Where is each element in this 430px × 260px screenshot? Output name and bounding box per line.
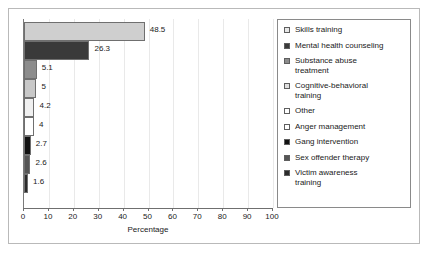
legend-label: Sex offender therapy: [295, 153, 369, 163]
bar[interactable]: [24, 41, 89, 60]
bar-value-label: 4: [39, 120, 43, 130]
bar-row: 26.3: [24, 41, 273, 60]
legend-item[interactable]: Skills training: [284, 25, 406, 35]
x-tick: [247, 208, 248, 211]
x-tick-label: 50: [136, 212, 160, 222]
legend-label: Cognitive-behavioral training: [295, 81, 368, 100]
legend-swatch-icon: [284, 124, 290, 130]
bar-value-label: 2.6: [35, 158, 46, 168]
bar[interactable]: [24, 174, 28, 193]
legend-item[interactable]: Other: [284, 106, 406, 116]
legend-label: Other: [295, 106, 315, 116]
legend-swatch-icon: [284, 155, 290, 161]
x-tick-label: 30: [86, 212, 110, 222]
x-tick: [222, 208, 223, 211]
x-tick: [148, 208, 149, 211]
bar-row: 2.6: [24, 155, 273, 174]
legend-swatch-icon: [284, 139, 290, 145]
bar-row: 4: [24, 117, 273, 136]
legend-item[interactable]: Substance abuse treatment: [284, 56, 406, 75]
bar[interactable]: [24, 155, 30, 174]
legend-swatch-icon: [284, 43, 290, 49]
bar-value-label: 4.2: [39, 101, 50, 111]
bar-row: 5: [24, 79, 273, 98]
bar-row: 5.1: [24, 60, 273, 79]
bar[interactable]: [24, 79, 36, 98]
bar[interactable]: [24, 98, 34, 117]
bar-row: 1.6: [24, 174, 273, 193]
legend-label: Gang intervention: [295, 137, 358, 147]
x-tick-label: 40: [111, 212, 135, 222]
legend-label: Anger management: [295, 122, 365, 132]
x-tick: [98, 208, 99, 211]
x-tick-label: 70: [185, 212, 209, 222]
bar-value-label: 2.7: [36, 139, 47, 149]
bar[interactable]: [24, 136, 31, 155]
x-tick: [48, 208, 49, 211]
bar[interactable]: [24, 117, 34, 136]
legend-swatch-icon: [284, 83, 290, 89]
x-tick-label: 20: [61, 212, 85, 222]
x-tick-label: 0: [11, 212, 35, 222]
bar-value-label: 5: [41, 82, 45, 92]
chart-legend: Skills trainingMental health counselingS…: [277, 19, 411, 208]
legend-swatch-icon: [284, 27, 290, 33]
legend-label: Skills training: [295, 25, 342, 35]
legend-label: Victim awareness training: [295, 168, 358, 187]
x-tick-label: 80: [210, 212, 234, 222]
x-axis-title: Percentage: [23, 225, 273, 235]
x-tick-label: 10: [36, 212, 60, 222]
legend-swatch-icon: [284, 58, 290, 64]
x-tick: [123, 208, 124, 211]
x-tick: [73, 208, 74, 211]
bar-row: 48.5: [24, 22, 273, 41]
x-tick-label: 60: [160, 212, 184, 222]
plot-area: 48.526.35.154.242.72.61.6: [23, 19, 272, 208]
legend-label: Substance abuse treatment: [295, 56, 357, 75]
bar-value-label: 5.1: [42, 63, 53, 73]
x-tick: [23, 208, 24, 211]
legend-swatch-icon: [284, 108, 290, 114]
bar-value-label: 1.6: [33, 177, 44, 187]
x-tick: [197, 208, 198, 211]
legend-item[interactable]: Gang intervention: [284, 137, 406, 147]
bar-value-label: 48.5: [150, 25, 166, 35]
bar-row: 2.7: [24, 136, 273, 155]
x-tick-label: 90: [235, 212, 259, 222]
legend-item[interactable]: Mental health counseling: [284, 41, 406, 51]
bar-row: 4.2: [24, 98, 273, 117]
x-tick: [272, 208, 273, 211]
legend-swatch-icon: [284, 170, 290, 176]
x-tick: [172, 208, 173, 211]
legend-label: Mental health counseling: [295, 41, 384, 51]
gridline: [273, 19, 274, 208]
bar[interactable]: [24, 60, 37, 79]
legend-item[interactable]: Sex offender therapy: [284, 153, 406, 163]
x-tick-label: 100: [260, 212, 284, 222]
chart-figure: 48.526.35.154.242.72.61.6 01020304050607…: [8, 8, 420, 244]
legend-item[interactable]: Victim awareness training: [284, 168, 406, 187]
legend-item[interactable]: Cognitive-behavioral training: [284, 81, 406, 100]
bar[interactable]: [24, 22, 145, 41]
legend-item[interactable]: Anger management: [284, 122, 406, 132]
bar-value-label: 26.3: [94, 44, 110, 54]
